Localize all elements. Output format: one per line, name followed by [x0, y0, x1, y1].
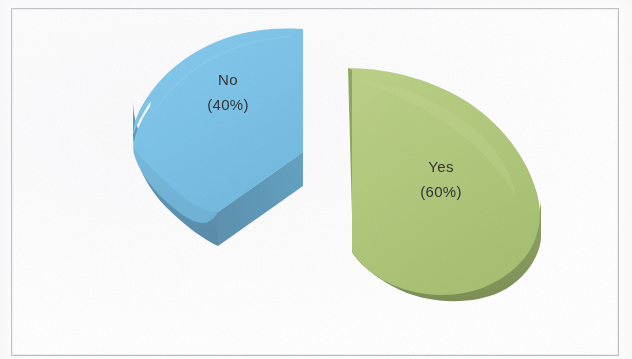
figure-page: No (40%) Yes (60%) — [0, 0, 632, 359]
label-yes-percent: (60%) — [420, 183, 462, 200]
label-no-percent: (40%) — [207, 96, 249, 113]
pie-slice-no[interactable] — [133, 29, 303, 246]
label-no-name: No — [218, 71, 238, 88]
label-yes-name: Yes — [428, 158, 453, 175]
pie-chart: No (40%) Yes (60%) — [0, 0, 632, 359]
